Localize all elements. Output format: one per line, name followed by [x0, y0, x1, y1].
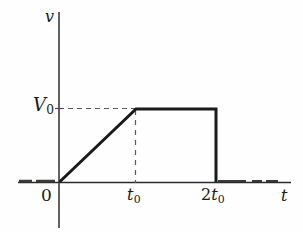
x-tick-label-2t0: 2t0 — [201, 187, 225, 206]
y-tick-label-v0-subscript: 0 — [46, 103, 54, 117]
x-tick-label-2t0-subscript: 0 — [218, 193, 225, 206]
velocity-curve — [60, 109, 217, 182]
x-tick-label-2t0-main: t — [211, 185, 217, 204]
x-tick-label-t0: t0 — [127, 187, 141, 206]
y-tick-label-v0-main: V — [33, 94, 46, 115]
origin-label: 0 — [41, 187, 52, 204]
velocity-time-graph-figure: v t V0 0 t0 2t0 — [0, 0, 303, 232]
y-tick-label-v0: V0 — [33, 96, 54, 117]
x-tick-label-2t0-coefficient: 2 — [201, 185, 211, 204]
x-tick-label-t0-main: t — [127, 185, 133, 204]
x-tick-label-t0-subscript: 0 — [134, 193, 141, 206]
y-axis-label: v — [45, 9, 54, 25]
x-axis-label: t — [281, 188, 287, 204]
